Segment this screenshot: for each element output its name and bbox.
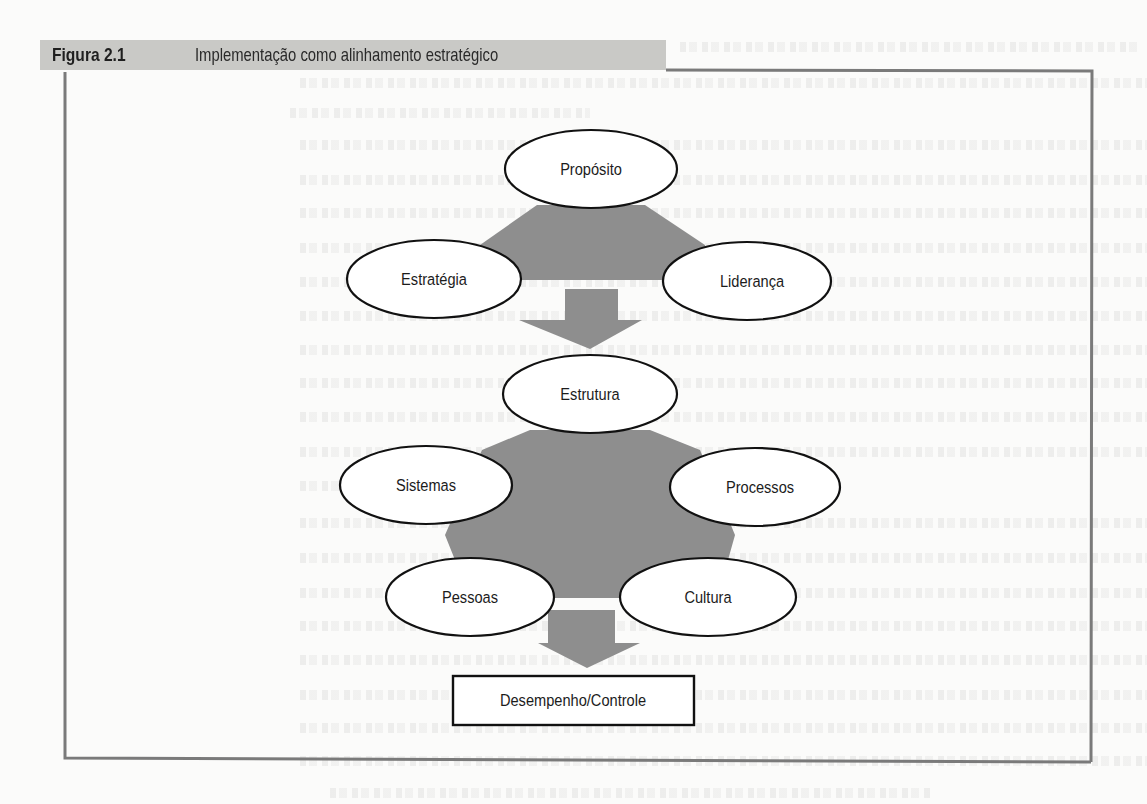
node-desempenho-controle: Desempenho/Controle	[453, 676, 694, 725]
node-label: Sistemas	[396, 476, 456, 494]
node-cultura: Cultura	[620, 558, 796, 636]
node-pessoas: Pessoas	[386, 558, 554, 636]
alignment-diagram: Propósito Estratégia Liderança Estrutura…	[0, 0, 1147, 804]
node-label: Liderança	[720, 272, 784, 290]
node-estrutura: Estrutura	[503, 355, 677, 433]
node-sistemas: Sistemas	[340, 446, 512, 524]
node-label: Pessoas	[442, 588, 498, 606]
node-estrategia: Estratégia	[347, 240, 521, 318]
arrow-middle-to-outcome	[538, 610, 640, 668]
node-label: Propósito	[560, 160, 622, 178]
node-label: Estrutura	[560, 385, 619, 403]
node-proposito: Propósito	[505, 130, 677, 208]
node-label: Processos	[726, 478, 794, 496]
arrow-top-to-middle	[519, 289, 642, 349]
node-lideranca: Liderança	[663, 242, 831, 320]
figure-frame-top	[666, 70, 1092, 762]
node-processos: Processos	[670, 448, 840, 526]
node-label: Cultura	[684, 588, 731, 606]
outcome-label: Desempenho/Controle	[500, 691, 646, 709]
node-label: Estratégia	[401, 270, 467, 288]
